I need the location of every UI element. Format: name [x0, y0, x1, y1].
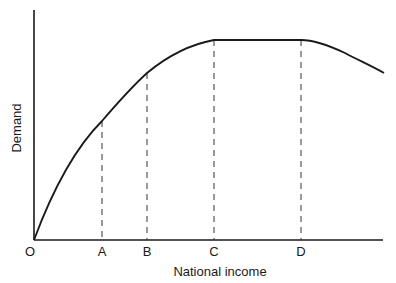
- demand-chart: O A B C D National income Demand: [0, 0, 396, 283]
- y-axis-title: Demand: [9, 103, 24, 152]
- tick-label-c: C: [209, 244, 218, 259]
- tick-label-b: B: [143, 244, 152, 259]
- tick-label-d: D: [296, 244, 305, 259]
- origin-label: O: [25, 244, 35, 259]
- tick-label-a: A: [98, 244, 107, 259]
- demand-curve: [34, 40, 384, 240]
- x-axis-title: National income: [173, 264, 266, 279]
